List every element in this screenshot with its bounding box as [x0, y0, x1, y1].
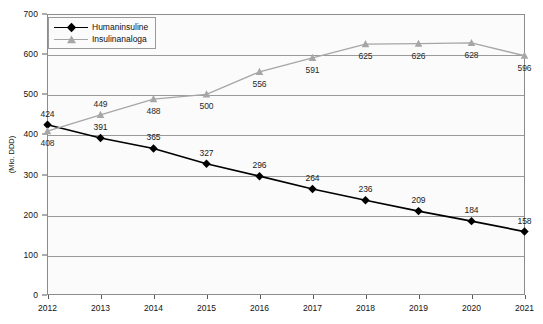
x-tick-label: 2013 — [91, 303, 110, 313]
x-tick-label: 2019 — [409, 303, 428, 313]
x-tick-label: 2015 — [197, 303, 216, 313]
data-point-label: 628 — [464, 50, 478, 60]
x-tick-mark — [472, 295, 473, 299]
x-tick-mark — [207, 295, 208, 299]
data-point-label: 296 — [252, 160, 266, 170]
legend: Humaninsuline Insulinanaloga — [48, 17, 156, 49]
data-point-marker — [520, 227, 528, 235]
legend-label-insulinanaloga: Insulinanaloga — [92, 34, 147, 44]
data-point-marker — [96, 134, 104, 142]
data-point-label: 158 — [517, 216, 531, 226]
x-tick-mark — [419, 295, 420, 299]
data-point-label: 424 — [40, 109, 54, 119]
x-tick-mark — [313, 295, 314, 299]
data-point-label: 365 — [146, 132, 160, 142]
legend-item-insulinanaloga[interactable]: Insulinanaloga — [54, 33, 148, 45]
data-point-marker — [202, 160, 210, 168]
series-line-humaninsuline — [48, 125, 525, 232]
data-point-marker — [414, 207, 422, 215]
x-tick-label: 2021 — [515, 303, 534, 313]
data-point-label: 488 — [146, 106, 160, 116]
y-axis-title: (Mio. DDD) — [7, 120, 16, 190]
data-point-label: 626 — [411, 51, 425, 61]
data-point-label: 327 — [199, 148, 213, 158]
y-tick-label: 100 — [24, 250, 38, 260]
data-point-label: 209 — [411, 195, 425, 205]
data-point-label: 391 — [93, 122, 107, 132]
x-tick-mark — [154, 295, 155, 299]
series-line-insulinanaloga — [48, 43, 525, 131]
x-tick-mark — [525, 295, 526, 299]
data-point-label: 184 — [464, 205, 478, 215]
x-tick-mark — [260, 295, 261, 299]
data-point-label: 591 — [305, 65, 319, 75]
y-tick-label: 200 — [24, 210, 38, 220]
x-tick-label: 2014 — [144, 303, 163, 313]
legend-marker-triangle-icon — [54, 34, 88, 45]
legend-item-humaninsuline[interactable]: Humaninsuline — [54, 21, 148, 33]
data-point-label: 236 — [358, 184, 372, 194]
x-tick-mark — [48, 295, 49, 299]
series-layer — [47, 14, 525, 295]
data-point-marker — [361, 196, 369, 204]
data-point-label: 408 — [40, 138, 54, 148]
line-chart: 7006005004003002001000 (Mio. DDD) 201220… — [0, 0, 543, 324]
y-tick-label: 300 — [24, 170, 38, 180]
data-point-label: 556 — [252, 79, 266, 89]
x-tick-label: 2017 — [303, 303, 322, 313]
data-point-label: 264 — [305, 173, 319, 183]
data-point-label: 625 — [358, 51, 372, 61]
legend-label-humaninsuline: Humaninsuline — [92, 22, 148, 32]
x-tick-label: 2018 — [356, 303, 375, 313]
legend-marker-diamond-icon — [54, 22, 88, 33]
data-point-marker — [255, 172, 263, 180]
data-point-label: 596 — [517, 63, 531, 73]
y-tick-label: 400 — [24, 129, 38, 139]
data-point-marker — [467, 217, 475, 225]
x-tick-mark — [366, 295, 367, 299]
y-tick-label: 600 — [24, 49, 38, 59]
x-tick-label: 2020 — [462, 303, 481, 313]
data-point-label: 449 — [93, 99, 107, 109]
data-point-label: 500 — [199, 101, 213, 111]
x-tick-mark — [101, 295, 102, 299]
y-tick-label: 700 — [24, 9, 38, 19]
x-tick-label: 2012 — [38, 303, 57, 313]
y-tick-label: 500 — [24, 89, 38, 99]
data-point-marker — [149, 144, 157, 152]
x-tick-label: 2016 — [250, 303, 269, 313]
x-axis: 2012201320142015201620172018201920202021 — [47, 295, 525, 323]
y-tick-label: 0 — [33, 290, 38, 300]
data-point-marker — [308, 185, 316, 193]
